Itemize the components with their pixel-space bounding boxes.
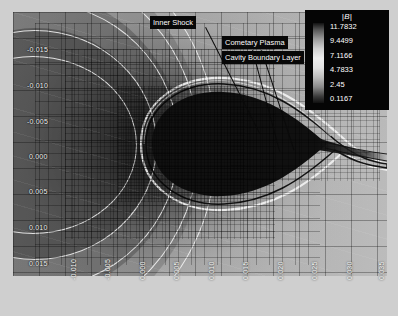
x-tick-label: 0.005 <box>173 261 180 280</box>
x-tick-label: -0.005 <box>104 259 111 280</box>
colorbar-tick: 4.7833 <box>330 66 389 74</box>
figure-container: -0.015 -0.010 -0.005 0.000 0.005 0.010 0… <box>0 0 398 316</box>
x-tick-label: 0.025 <box>311 261 318 280</box>
colorbar-tick: 2.45 <box>330 81 389 89</box>
x-tick-label: -0.010 <box>70 259 77 280</box>
annotation-cometary-plasma: Cometary Plasma <box>222 36 288 49</box>
colorbar-tick: 0.1167 <box>330 95 389 103</box>
x-tick-label: 0.035 <box>378 261 385 280</box>
colorbar-tick: 9.4499 <box>330 37 389 45</box>
y-tick-label: 0.010 <box>29 224 48 231</box>
x-tick-label: 0.015 <box>242 261 249 280</box>
legend-title: |B| <box>342 12 352 21</box>
colorbar-legend: |B| 11.7832 9.4499 7.1166 4.7833 2.45 0.… <box>305 10 389 110</box>
y-tick-label: 0.015 <box>29 260 48 267</box>
mesh-grid-finest <box>118 86 245 202</box>
y-tick-label: 0.005 <box>29 188 48 195</box>
legend-body: 11.7832 9.4499 7.1166 4.7833 2.45 0.1167 <box>305 23 389 103</box>
annotation-inner-shock: Inner Shock <box>150 16 196 29</box>
comet-nucleus-marker <box>160 142 165 147</box>
colorbar-gradient <box>313 23 324 103</box>
y-tick-label: -0.005 <box>27 118 48 125</box>
annotation-cavity-boundary-layer: Cavity Boundary Layer <box>222 51 304 64</box>
colorbar-tick-list: 11.7832 9.4499 7.1166 4.7833 2.45 0.1167 <box>330 23 389 103</box>
y-tick-label: -0.010 <box>27 82 48 89</box>
x-tick-label: 0.000 <box>139 261 146 280</box>
y-tick-label: -0.015 <box>27 46 48 53</box>
colorbar-tick: 11.7832 <box>330 23 389 31</box>
y-tick-label: 0.000 <box>29 153 48 160</box>
x-tick-label: 0.020 <box>277 261 284 280</box>
x-tick-label: 0.010 <box>208 261 215 280</box>
colorbar-tick: 7.1166 <box>330 52 389 60</box>
x-tick-label: 0.030 <box>346 261 353 280</box>
